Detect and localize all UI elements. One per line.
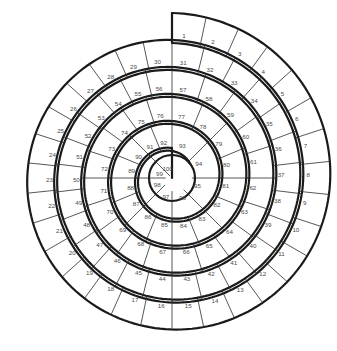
cell-divider xyxy=(226,29,238,56)
cell-number: 46 xyxy=(114,257,121,264)
cell-number: 52 xyxy=(85,132,92,139)
cell-divider xyxy=(73,229,98,246)
cell-number: 13 xyxy=(237,286,244,293)
cell-divider xyxy=(195,271,202,300)
cell-number: 1 xyxy=(182,32,186,39)
cell-number: 50 xyxy=(73,176,80,183)
cell-number: 86 xyxy=(145,213,152,220)
cell-number: 89 xyxy=(128,167,135,174)
cell-number: 79 xyxy=(215,140,222,147)
cell-divider xyxy=(217,148,245,159)
cell-number: 24 xyxy=(49,151,56,158)
cell-divider xyxy=(184,190,205,211)
cell-number: 90 xyxy=(135,153,142,160)
cell-number: 71 xyxy=(100,187,107,194)
cell-divider xyxy=(295,129,324,138)
cell-divider xyxy=(125,204,146,225)
cell-divider xyxy=(273,162,303,166)
cell-number: 59 xyxy=(227,111,234,118)
cell-number: 96 xyxy=(179,194,186,201)
cell-divider xyxy=(89,64,107,88)
cell-divider xyxy=(281,241,307,256)
cell-number: 73 xyxy=(108,145,115,152)
cell-divider xyxy=(33,214,62,223)
cell-divider xyxy=(217,264,231,291)
cell-number: 78 xyxy=(200,123,207,130)
cell-number: 32 xyxy=(207,66,214,73)
cell-number: 47 xyxy=(96,241,103,248)
cell-divider xyxy=(45,237,71,252)
cell-number: 34 xyxy=(251,97,258,104)
cell-divider xyxy=(189,140,210,161)
cell-divider xyxy=(67,83,89,103)
cell-number: 55 xyxy=(134,90,141,97)
cell-divider xyxy=(60,210,88,221)
cell-number: 27 xyxy=(87,87,94,94)
cell-divider xyxy=(143,42,149,71)
cell-divider xyxy=(115,50,127,77)
cell-divider xyxy=(28,163,58,166)
cell-number: 100 xyxy=(162,165,173,172)
cell-number: 56 xyxy=(156,85,163,92)
cell-number: 74 xyxy=(121,129,128,136)
cell-number: 17 xyxy=(132,296,139,303)
cell-divider xyxy=(92,246,112,268)
cell-divider xyxy=(268,131,296,142)
cell-number: 88 xyxy=(127,184,134,191)
cell-divider xyxy=(299,191,329,194)
cell-number: 7 xyxy=(304,142,308,149)
cell-divider xyxy=(146,97,155,126)
cell-number: 82 xyxy=(213,201,220,208)
cell-divider xyxy=(56,164,86,168)
cell-number: 81 xyxy=(222,182,229,189)
cell-divider xyxy=(222,291,234,318)
cell-number: 38 xyxy=(274,197,281,204)
cell-number: 57 xyxy=(180,86,187,93)
cell-number: 92 xyxy=(160,139,167,146)
cell-number: 2 xyxy=(211,38,215,45)
cell-number: 69 xyxy=(119,226,126,233)
cell-number: 87 xyxy=(133,200,140,207)
cell-number: 16 xyxy=(158,302,165,309)
cell-number: 51 xyxy=(76,153,83,160)
cell-divider xyxy=(142,269,149,298)
cell-divider xyxy=(62,257,84,277)
cell-number: 39 xyxy=(265,221,272,228)
cell-number: 14 xyxy=(212,297,219,304)
cell-divider xyxy=(265,262,287,282)
cell-number: 53 xyxy=(98,114,105,121)
cell-number: 60 xyxy=(242,133,249,140)
cell-number: 70 xyxy=(107,208,114,215)
cell-number: 9 xyxy=(303,199,307,206)
cell-divider xyxy=(213,235,231,259)
cell-number: 12 xyxy=(259,270,266,277)
cell-number: 64 xyxy=(226,228,233,235)
cell-number: 28 xyxy=(107,73,114,80)
cell-number: 93 xyxy=(179,142,186,149)
cell-divider xyxy=(300,161,330,164)
cell-divider xyxy=(270,70,292,90)
cell-number: 61 xyxy=(250,158,257,165)
cell-number: 45 xyxy=(135,269,142,276)
cell-divider xyxy=(145,69,152,98)
cell-divider xyxy=(234,115,258,133)
cell-number: 54 xyxy=(115,100,122,107)
cell-divider xyxy=(193,243,202,272)
cell-divider xyxy=(197,74,206,103)
cell-number: 6 xyxy=(295,115,299,122)
cell-number: 31 xyxy=(180,59,187,66)
cell-divider xyxy=(141,296,147,325)
cell-divider xyxy=(272,190,302,194)
cell-divider xyxy=(257,102,282,119)
cell-divider xyxy=(85,274,103,298)
cell-divider xyxy=(96,215,120,233)
cell-number: 25 xyxy=(57,127,64,134)
cell-divider xyxy=(242,77,262,99)
cell-divider xyxy=(28,190,58,193)
cell-number: 4 xyxy=(262,68,266,75)
cell-number: 30 xyxy=(154,58,161,65)
cell-number: 42 xyxy=(208,270,215,277)
cell-number: 76 xyxy=(157,112,164,119)
cell-number: 3 xyxy=(238,50,242,57)
cell-number: 10 xyxy=(292,226,299,233)
